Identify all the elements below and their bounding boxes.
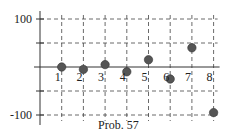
figure-caption: Prob. 57 bbox=[98, 118, 139, 133]
x-tick-label: 2 bbox=[76, 71, 82, 83]
x-tick-label: 5 bbox=[142, 71, 148, 83]
x-tick-label: 6 bbox=[163, 71, 169, 83]
x-tick-label: 3 bbox=[98, 71, 104, 83]
y-tick-label-top: 100 bbox=[0, 13, 32, 25]
x-tick-label: 4 bbox=[120, 71, 126, 83]
y-tick-label-bottom: -100 bbox=[0, 109, 32, 121]
x-tick-label: 7 bbox=[185, 71, 191, 83]
x-tick-label: 8 bbox=[207, 71, 213, 83]
x-tick-label: 1 bbox=[55, 71, 61, 83]
